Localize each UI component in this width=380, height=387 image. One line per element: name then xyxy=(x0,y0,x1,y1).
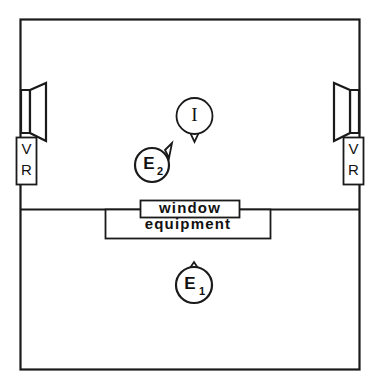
loudspeaker-left-cone xyxy=(30,83,46,141)
window-box: window xyxy=(141,199,240,217)
loudspeaker-left-driver xyxy=(21,90,30,133)
window-box-label: window xyxy=(158,199,221,216)
diagram-root: V R V R equipment window I xyxy=(0,0,380,387)
marker-examiner-2-sublabel: 2 xyxy=(157,165,163,177)
vr-box-right: V R xyxy=(344,138,364,185)
room-layout-diagram: V R V R equipment window I xyxy=(0,0,380,387)
loudspeaker-right xyxy=(334,83,359,141)
loudspeaker-right-cone xyxy=(334,83,350,141)
loudspeaker-left xyxy=(21,83,46,141)
loudspeaker-right-driver xyxy=(350,90,359,133)
vr-box-left-line2: R xyxy=(21,161,32,178)
vr-box-left: V R xyxy=(17,138,37,185)
room-outline xyxy=(21,20,360,370)
vr-box-right-line1: V xyxy=(348,140,358,157)
marker-listener-label: I xyxy=(191,104,197,125)
marker-examiner-2-label: E xyxy=(143,154,154,173)
vr-box-right-line2: R xyxy=(348,161,359,178)
marker-examiner-1-label: E xyxy=(184,274,195,293)
marker-examiner-1-sublabel: 1 xyxy=(199,285,205,297)
vr-box-left-line1: V xyxy=(21,140,31,157)
